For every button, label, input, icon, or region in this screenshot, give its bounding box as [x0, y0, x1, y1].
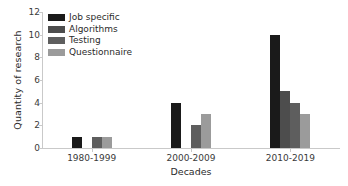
y-tick-label: 2 [0, 119, 40, 131]
x-tick-mark [191, 149, 192, 152]
bar [201, 114, 211, 148]
legend-item-label: Testing [69, 35, 101, 46]
legend-item-label: Job specific [69, 12, 120, 23]
y-tick-mark [39, 148, 42, 149]
bar [191, 125, 201, 148]
y-tick-label: 4 [0, 97, 40, 109]
y-tick-label: 12 [0, 6, 40, 18]
x-axis-label: Decades [42, 166, 340, 178]
chart-legend: Job specificAlgorithmsTestingQuestionnai… [48, 12, 152, 56]
bar [171, 103, 181, 148]
legend-swatch-icon [48, 37, 65, 44]
bar [270, 35, 280, 148]
legend-swatch-icon [48, 14, 65, 21]
y-tick-label: 10 [0, 29, 40, 41]
y-tick-label: 6 [0, 74, 40, 86]
bar [300, 114, 310, 148]
bar [102, 137, 112, 148]
bar [92, 137, 102, 148]
legend-item-label: Questionnaire [69, 47, 132, 58]
legend-item-label: Algorithms [69, 24, 118, 35]
bar [290, 103, 300, 148]
bar [72, 137, 82, 148]
legend-swatch-icon [48, 49, 65, 56]
y-tick-label: 8 [0, 51, 40, 63]
x-tick-mark [92, 149, 93, 152]
bar [280, 91, 290, 148]
x-tick-label: 2010-2019 [230, 152, 348, 164]
x-tick-mark [290, 149, 291, 152]
legend-swatch-icon [48, 26, 65, 33]
bar-chart-figure: Quantity of research 024681012 1980-1999… [0, 0, 348, 186]
